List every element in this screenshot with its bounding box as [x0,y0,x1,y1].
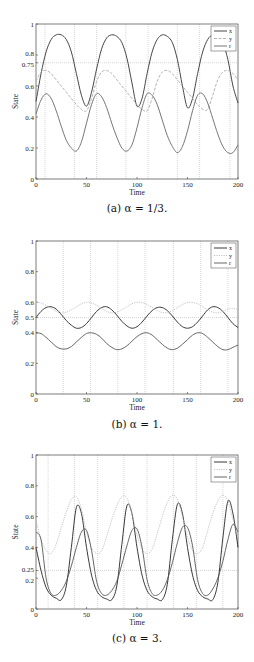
x-tick-label: 150 [182,611,193,619]
x-tick-label: 0 [34,396,38,404]
x-axis-label: Time [129,403,145,412]
y-tick-label: 0.6 [25,83,34,91]
x-tick-label: 50 [83,611,91,619]
chart-panel-2: 05010015020000.20.250.40.60.81TimeStatex… [11,452,244,645]
series-line-r [36,333,238,350]
figure-caption: (a) α = 1/3. [107,202,168,214]
y-tick-label: 0.2 [25,577,34,585]
y-tick-label: 0.2 [25,145,34,153]
plot-area [36,24,238,179]
legend-label-r: r [229,474,231,480]
y-axis-label: State [11,524,20,540]
y-tick-label: 1 [31,452,35,460]
x-tick-label: 0 [34,611,38,619]
series-line-r [36,93,238,154]
y-tick-label: 0 [31,606,35,614]
x-tick-label: 150 [182,181,193,189]
y-tick-label: 0 [31,176,35,184]
x-tick-label: 0 [34,181,38,189]
y-tick-label: 0.6 [25,299,34,307]
series-line-x [36,500,238,601]
y-tick-label: 0.6 [25,513,34,521]
y-tick-label: 1 [31,238,35,246]
legend-label-y: y [229,467,232,473]
chart-panel-1: 05010015020000.20.40.50.60.81TimeStatexy… [11,238,244,431]
figure-caption: (b) α = 1. [112,418,163,430]
x-axis-label: Time [129,188,145,197]
y-tick-label: 0.25 [22,566,35,574]
legend-label-y: y [229,36,232,42]
y-tick-label: 0.75 [22,61,35,69]
x-tick-label: 200 [233,181,244,189]
figure: 05010015020000.20.40.60.750.81TimeStatex… [0,0,254,662]
y-tick-label: 0.4 [25,544,34,552]
series-line-x [36,34,238,108]
y-tick-label: 0.4 [25,329,34,337]
y-axis-label: State [11,93,20,109]
x-tick-label: 200 [233,396,244,404]
x-tick-label: 50 [83,181,91,189]
legend-label-x: x [229,245,232,251]
x-tick-label: 50 [83,396,91,404]
x-tick-label: 150 [182,396,193,404]
y-tick-label: 1 [31,21,35,29]
figure-caption: (c) α = 3. [112,632,162,644]
y-tick-label: 0.4 [25,114,34,122]
series-line-y [36,302,238,313]
legend-label-x: x [229,28,232,34]
legend-label-y: y [229,253,232,259]
y-tick-label: 0.5 [25,314,34,322]
x-axis-label: Time [129,618,145,627]
legend-label-r: r [229,43,231,49]
x-tick-label: 200 [233,611,244,619]
y-tick-label: 0.8 [25,482,34,490]
y-tick-label: 0.2 [25,360,34,368]
y-axis-label: State [11,309,20,325]
chart-panel-0: 05010015020000.20.40.60.750.81TimeStatex… [11,21,244,215]
legend-label-r: r [229,260,231,266]
y-tick-label: 0.8 [25,268,34,276]
y-tick-label: 0 [31,391,35,399]
legend-label-x: x [229,459,232,465]
y-tick-label: 0.8 [25,50,34,58]
